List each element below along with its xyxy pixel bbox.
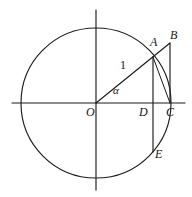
geometry-figure: O A B C D E 1 α (0, 0, 192, 197)
label-point-b: B (170, 29, 177, 41)
label-radius-length: 1 (120, 59, 126, 71)
label-point-c: C (166, 106, 174, 118)
geometry-canvas (0, 0, 192, 197)
label-point-e: E (155, 148, 162, 160)
label-point-d: D (139, 106, 148, 118)
label-point-o: O (86, 106, 95, 118)
label-angle-alpha: α (113, 85, 119, 96)
label-point-a: A (150, 36, 157, 48)
